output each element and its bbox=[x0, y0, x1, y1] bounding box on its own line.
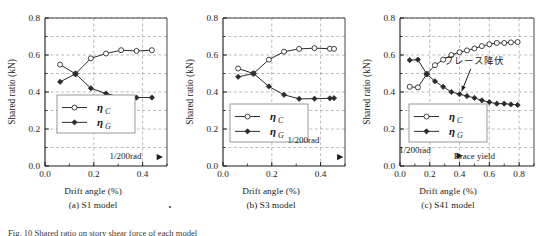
data-point-eta-g bbox=[312, 96, 317, 101]
data-point-eta-c bbox=[282, 49, 287, 54]
x-axis-title-c: Drift angle (%) bbox=[357, 186, 539, 197]
legend-marker-eta-c bbox=[424, 114, 429, 119]
y-axis-title: Shared ratio (kN) bbox=[362, 59, 373, 125]
x-tick-label: 0.2 bbox=[424, 169, 436, 179]
panel-caption-c: (c) S41 model bbox=[357, 200, 539, 211]
chart-panel-b: 0.00.20.40.60.80.00.20.4Shared ratio (kN… bbox=[180, 0, 362, 214]
data-point-eta-c bbox=[236, 66, 241, 71]
data-point-eta-c bbox=[515, 40, 520, 45]
data-point-eta-g bbox=[407, 58, 412, 63]
data-point-eta-c bbox=[332, 46, 337, 51]
x-tick-label: 0.2 bbox=[88, 169, 100, 179]
data-point-eta-g bbox=[58, 79, 63, 84]
x-axis-title-a: Drift angle (%) bbox=[2, 186, 184, 197]
data-point-eta-c bbox=[457, 50, 462, 55]
legend-label-subscript: C bbox=[278, 116, 284, 125]
y-tick-label: 0.8 bbox=[29, 13, 41, 23]
data-point-eta-c bbox=[88, 56, 93, 61]
y-tick-label: 0.2 bbox=[29, 124, 41, 134]
y-axis-title: Shared ratio (kN) bbox=[7, 59, 18, 125]
legend-marker-eta-c bbox=[245, 114, 250, 119]
data-point-eta-g bbox=[415, 57, 420, 62]
data-point-eta-c bbox=[487, 42, 492, 47]
data-point-eta-c bbox=[104, 51, 109, 56]
data-point-eta-g bbox=[449, 89, 454, 94]
data-point-eta-c bbox=[119, 48, 124, 53]
drift-marker-triangle bbox=[157, 154, 163, 160]
stray-mark bbox=[169, 206, 171, 208]
y-tick-label: 0.6 bbox=[207, 50, 219, 60]
legend-label-eta: η bbox=[449, 125, 455, 137]
legend-box bbox=[409, 104, 487, 142]
legend-box bbox=[57, 95, 135, 133]
figure-caption: Fig. 10 Shared ratio on story shear forc… bbox=[8, 228, 197, 236]
data-point-eta-g bbox=[472, 95, 477, 100]
x-tick-label: 0.2 bbox=[266, 169, 278, 179]
plot-svg-b: 0.00.20.40.60.80.00.20.4Shared ratio (kN… bbox=[180, 0, 362, 182]
data-point-eta-c bbox=[266, 57, 271, 62]
data-point-eta-c bbox=[494, 40, 499, 45]
x-tick-label: 0.0 bbox=[39, 169, 51, 179]
data-point-eta-c bbox=[465, 48, 470, 53]
data-point-eta-g bbox=[502, 101, 507, 106]
legend-label-subscript: C bbox=[457, 116, 463, 125]
panel-caption-b: (b) S3 model bbox=[180, 200, 362, 211]
y-tick-label: 0.4 bbox=[384, 87, 396, 97]
y-tick-label: 0.2 bbox=[207, 124, 219, 134]
data-point-eta-g bbox=[515, 102, 520, 107]
y-tick-label: 0.8 bbox=[384, 13, 396, 23]
legend-label-eta: η bbox=[270, 110, 276, 122]
data-point-eta-c bbox=[312, 46, 317, 51]
x-tick-label: 0.4 bbox=[137, 169, 149, 179]
y-tick-label: 0.8 bbox=[207, 13, 219, 23]
y-tick-label: 0.6 bbox=[29, 50, 41, 60]
y-tick-label: 0.4 bbox=[29, 87, 41, 97]
data-point-eta-g bbox=[479, 98, 484, 103]
data-point-eta-g bbox=[149, 95, 154, 100]
y-tick-label: 0.4 bbox=[207, 87, 219, 97]
data-point-eta-c bbox=[407, 84, 412, 89]
panel-caption-a: (a) S1 model bbox=[2, 200, 184, 211]
data-point-eta-g bbox=[281, 92, 286, 97]
legend-label-eta: η bbox=[97, 116, 103, 128]
y-tick-label: 0.2 bbox=[384, 124, 396, 134]
x-axis-title-b: Drift angle (%) bbox=[180, 186, 362, 197]
annotation-brace-yield-jp: ブレース降伏 bbox=[444, 55, 504, 66]
x-tick-label: 0.0 bbox=[217, 169, 229, 179]
data-point-eta-g bbox=[487, 100, 492, 105]
annotation-drift-label: 1/200rad bbox=[110, 151, 142, 161]
plot-svg-c: 0.00.20.40.60.80.00.20.40.60.8Shared rat… bbox=[357, 0, 547, 182]
legend-label-eta: η bbox=[449, 110, 455, 122]
data-point-eta-g bbox=[494, 101, 499, 106]
chart-panel-c: 0.00.20.40.60.80.00.20.40.60.8Shared rat… bbox=[357, 0, 539, 214]
data-point-eta-g bbox=[297, 96, 302, 101]
y-tick-label: 0.6 bbox=[384, 50, 396, 60]
data-point-eta-c bbox=[472, 46, 477, 51]
data-point-eta-g bbox=[457, 92, 462, 97]
x-tick-label: 0.0 bbox=[394, 169, 406, 179]
legend-label-subscript: G bbox=[278, 131, 284, 140]
data-point-eta-c bbox=[432, 63, 437, 68]
data-point-eta-c bbox=[502, 40, 507, 45]
plot-svg-a: 0.00.20.40.60.80.00.20.4Shared ratio (kN… bbox=[2, 0, 184, 182]
x-tick-label: 0.4 bbox=[454, 169, 466, 179]
legend-marker-eta-c bbox=[72, 105, 77, 110]
legend-label-eta: η bbox=[97, 101, 103, 113]
data-point-eta-c bbox=[297, 46, 302, 51]
data-point-eta-c bbox=[415, 85, 420, 90]
x-tick-label: 0.8 bbox=[513, 169, 525, 179]
data-point-eta-g bbox=[331, 96, 336, 101]
data-point-eta-c bbox=[479, 44, 484, 49]
legend-label-subscript: G bbox=[105, 122, 111, 131]
y-axis-title: Shared ratio (kN) bbox=[185, 59, 196, 125]
legend-label-subscript: C bbox=[105, 107, 111, 116]
x-tick-label: 0.4 bbox=[315, 169, 327, 179]
data-point-eta-g bbox=[464, 93, 469, 98]
annotation-drift-label: 1/200rad bbox=[399, 145, 431, 155]
data-point-eta-c bbox=[58, 62, 63, 67]
data-point-eta-c bbox=[134, 48, 139, 53]
drift-marker-triangle bbox=[337, 154, 343, 160]
legend-label-subscript: G bbox=[457, 131, 463, 140]
data-point-eta-g bbox=[236, 74, 241, 79]
figure-container: 0.00.20.40.60.80.00.20.4Shared ratio (kN… bbox=[0, 0, 547, 236]
